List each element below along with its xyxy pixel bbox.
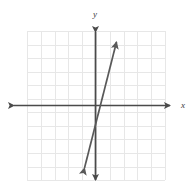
graph-canvas: y x	[0, 0, 191, 195]
x-axis-label: x	[180, 100, 185, 110]
axis-lines	[14, 32, 170, 180]
coordinate-graph-figure: y x	[0, 0, 191, 195]
y-axis-label: y	[92, 9, 97, 19]
